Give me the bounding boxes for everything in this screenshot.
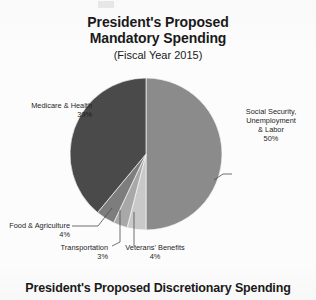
chart-page: President's Proposed Mandatory Spending … (0, 0, 316, 300)
slice-label-social-line-1: Social Security, (234, 107, 308, 116)
slice-label-transportation: Transportation 3% (42, 243, 108, 261)
slice-label-veterans-name: Veterans' Benefits (116, 243, 194, 252)
pie-chart-area: Medicare & Health 39% Social Security, U… (0, 60, 316, 265)
chart-title-block: President's Proposed Mandatory Spending … (0, 14, 316, 63)
footer-heading: President's Proposed Discretionary Spend… (0, 281, 316, 295)
slice-label-food-value: 4% (2, 230, 70, 239)
scan-artifact (98, 1, 114, 8)
slice-label-social-security: Social Security, Unemployment & Labor 50… (234, 107, 308, 143)
slice-label-transportation-name: Transportation (42, 243, 108, 252)
slice-label-food-name: Food & Agriculture (2, 221, 70, 230)
slice-label-social-line-2: Unemployment (234, 116, 308, 125)
slice-label-medicare: Medicare & Health 39% (8, 101, 92, 119)
slice-label-medicare-name: Medicare & Health (8, 101, 92, 110)
pie-slice (146, 78, 222, 230)
slice-label-medicare-value: 39% (8, 110, 92, 119)
chart-title-line-2: Mandatory Spending (0, 30, 316, 46)
pie-slice-group (70, 78, 222, 230)
slice-label-transportation-value: 3% (42, 252, 108, 261)
slice-label-social-line-3: & Labor (234, 125, 308, 134)
slice-label-veterans: Veterans' Benefits 4% (116, 243, 194, 261)
slice-label-food-agriculture: Food & Agriculture 4% (2, 221, 70, 239)
slice-label-veterans-value: 4% (116, 252, 194, 261)
slice-label-social-value: 50% (234, 134, 308, 143)
chart-title-line-1: President's Proposed (0, 14, 316, 30)
